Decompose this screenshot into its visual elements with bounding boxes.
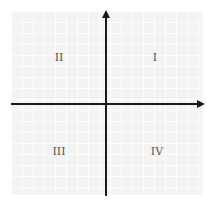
y-axis-arrow-icon bbox=[102, 10, 110, 18]
quadrant-label-i: I bbox=[153, 51, 157, 64]
quadrant-label-iv: IV bbox=[151, 145, 163, 158]
quadrant-label-ii: II bbox=[55, 51, 64, 64]
y-axis bbox=[105, 16, 107, 196]
x-axis-arrow-icon bbox=[197, 100, 205, 108]
quadrant-label-iii: III bbox=[52, 145, 65, 158]
